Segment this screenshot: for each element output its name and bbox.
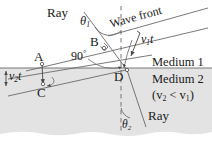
point-d-marker (125, 68, 128, 71)
label-point-b: B (90, 35, 99, 48)
point-b-marker (102, 46, 105, 49)
speed-rel-open: (v (152, 88, 162, 102)
label-point-d: D (114, 70, 123, 83)
label-theta2: θ2 (122, 119, 131, 132)
label-v1t: v1t (141, 33, 153, 46)
label-point-c: C (37, 86, 46, 99)
speed-rel-mid: < v (166, 88, 186, 102)
v1t-t-glyph: t (150, 32, 153, 46)
v1t-distance-arrow (131, 31, 140, 56)
speed-rel-close: ) (190, 88, 194, 102)
v2t-t-glyph: t (18, 69, 21, 83)
label-v2t: v2t (9, 70, 21, 83)
right-angle-value: 90 (71, 49, 83, 63)
refraction-figure: Ray Ray Wave front Medium 1 Medium 2 (v2… (0, 0, 212, 145)
degree-symbol: ° (83, 49, 86, 58)
label-ray-bottom: Ray (148, 109, 169, 122)
label-right-angle: 90° (71, 50, 86, 62)
theta1-subscript: 1 (86, 20, 90, 29)
theta2-subscript: 2 (128, 124, 132, 132)
label-ray-top: Ray (47, 6, 68, 19)
label-point-a: A (34, 50, 43, 63)
label-medium-2: Medium 2 (152, 73, 204, 86)
v1t-leader-curve (124, 40, 132, 68)
label-theta1: θ1 (80, 15, 90, 29)
label-medium-1: Medium 1 (152, 56, 204, 69)
label-speed-relation: (v2 < v1) (152, 89, 194, 103)
